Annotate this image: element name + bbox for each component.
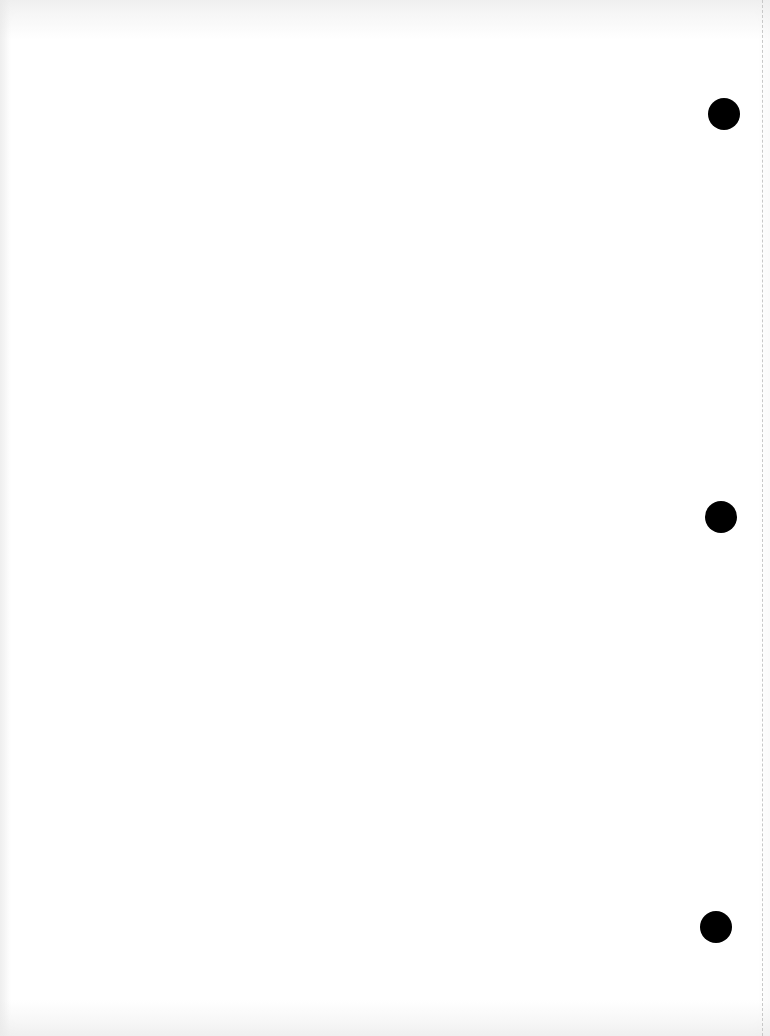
punch-hole-middle [705, 501, 737, 533]
scanned-page [0, 0, 770, 1036]
scan-top-shadow [0, 0, 770, 40]
punch-hole-top [708, 98, 740, 130]
scan-left-shadow [0, 0, 10, 1036]
perforation-line [762, 0, 763, 1036]
scan-bottom-shadow [0, 1000, 770, 1036]
punch-hole-bottom [700, 911, 732, 943]
